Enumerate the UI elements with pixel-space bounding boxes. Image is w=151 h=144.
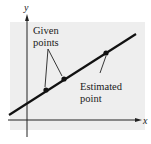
given-point-1 xyxy=(43,87,48,92)
plot-background xyxy=(10,22,145,130)
x-axis-label: x xyxy=(142,115,148,126)
y-axis-label: y xyxy=(23,2,29,13)
estimated-label-line2: point xyxy=(80,93,102,104)
given-label-line1: Given xyxy=(33,25,59,36)
given-point-2 xyxy=(61,76,66,81)
estimated-label-line1: Estimated xyxy=(80,81,123,92)
estimated-point xyxy=(103,50,108,55)
y-axis-arrow-icon xyxy=(25,14,29,21)
diagram-canvas: y x Given points Estimated point xyxy=(0,0,151,144)
given-label-line2: points xyxy=(33,37,59,48)
